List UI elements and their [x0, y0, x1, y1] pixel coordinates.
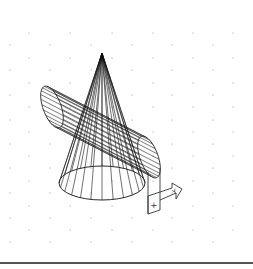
grid-dot [132, 70, 133, 71]
cone-generator-line [102, 53, 139, 175]
grid-dot [153, 33, 154, 34]
grid-dot [70, 107, 71, 108]
grid-dot [91, 242, 92, 243]
grid-dot [112, 206, 113, 207]
grid-dot [172, 242, 173, 243]
grid-dot [193, 156, 194, 157]
cylinder-edge [63, 115, 160, 165]
cone-wireframe[interactable] [59, 53, 145, 200]
grid-dot [132, 218, 133, 219]
grid-dot [193, 230, 194, 231]
grid-dot [91, 218, 92, 219]
grid-dot [213, 144, 214, 145]
grid-dot [213, 70, 214, 71]
grid-dot [213, 242, 214, 243]
grid-dot [70, 83, 71, 84]
grid-dot [70, 206, 71, 207]
grid-dot [172, 144, 173, 145]
cylinder-edge [41, 99, 138, 149]
ucs-icon: + Y [148, 168, 182, 214]
ucs-plus-glyph: + [151, 201, 158, 210]
grid-dot [29, 33, 30, 34]
grid-dot [233, 206, 234, 207]
grid-dot [193, 206, 194, 207]
grid-dot [10, 168, 11, 169]
grid-dot [213, 45, 214, 46]
grid-dot [172, 45, 173, 46]
grid-dot [233, 230, 234, 231]
grid-dot [10, 45, 11, 46]
grid-dot [233, 83, 234, 84]
grid-dot [132, 120, 133, 121]
grid-dot [193, 33, 194, 34]
grid-dot [50, 193, 51, 194]
grid-dot [172, 120, 173, 121]
grid-dot [10, 70, 11, 71]
grid-dot [153, 132, 154, 133]
grid-dot [233, 132, 234, 133]
grid-dot [132, 95, 133, 96]
drawing-viewport[interactable]: + Y [0, 0, 253, 262]
grid-dot [172, 95, 173, 96]
grid-dot [50, 168, 51, 169]
grid-dot [10, 120, 11, 121]
grid-dot [233, 33, 234, 34]
grid-dot [29, 181, 30, 182]
grid-dot [233, 156, 234, 157]
command-line[interactable] [0, 264, 253, 269]
grid-dot [193, 83, 194, 84]
grid-dot [193, 132, 194, 133]
grid-dot [29, 58, 30, 59]
grid-dot [10, 193, 11, 194]
grid-dot [132, 242, 133, 243]
grid-dot [29, 156, 30, 157]
grid-dot [213, 193, 214, 194]
grid-dot [91, 45, 92, 46]
grid-dot [50, 70, 51, 71]
grid-dot [112, 58, 113, 59]
grid-dot [29, 107, 30, 108]
grid-dot [50, 242, 51, 243]
grid-dot [70, 58, 71, 59]
grid-dot [29, 206, 30, 207]
grid-dot [172, 70, 173, 71]
grid-dot [213, 120, 214, 121]
grid-dot [70, 181, 71, 182]
grid-dot [112, 230, 113, 231]
grid-dot [29, 230, 30, 231]
grid-dot [153, 181, 154, 182]
grid-dot [153, 83, 154, 84]
grid-dot [112, 33, 113, 34]
grid-dot [213, 218, 214, 219]
grid-dot [29, 132, 30, 133]
grid-dot [193, 58, 194, 59]
grid-dot [172, 218, 173, 219]
grid-dot [91, 70, 92, 71]
grid-dot [10, 242, 11, 243]
grid-dot [10, 95, 11, 96]
grid-dot [91, 168, 92, 169]
grid-dot [233, 58, 234, 59]
grid-dot [213, 95, 214, 96]
grid-dot [153, 230, 154, 231]
grid-dot [10, 218, 11, 219]
grid-dot [213, 168, 214, 169]
grid-dot [153, 58, 154, 59]
grid-dot [50, 218, 51, 219]
grid-dot [153, 107, 154, 108]
cylinder-wireframe[interactable] [41, 86, 161, 178]
grid-dot [70, 33, 71, 34]
grid-dot [70, 230, 71, 231]
grid-dot [10, 144, 11, 145]
grid-dot [50, 144, 51, 145]
grid-dot [193, 107, 194, 108]
snap-grid [10, 33, 234, 243]
grid-dot [193, 181, 194, 182]
grid-dot [50, 45, 51, 46]
grid-dot [132, 45, 133, 46]
grid-dot [172, 168, 173, 169]
grid-dot [233, 107, 234, 108]
grid-dot [233, 181, 234, 182]
wireframe-scene: + Y [0, 0, 253, 262]
grid-dot [29, 83, 30, 84]
